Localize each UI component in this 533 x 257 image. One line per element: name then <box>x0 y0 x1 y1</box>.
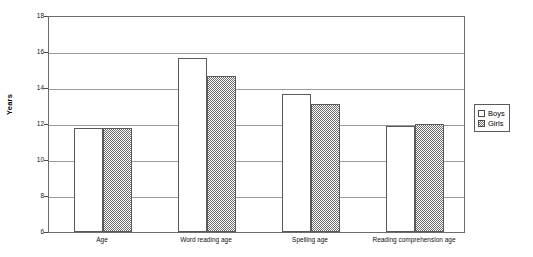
legend-label-girls: Girls <box>488 119 503 128</box>
bar-girls-reading-comprehension-age <box>415 124 444 233</box>
gridline-16 <box>49 53 464 54</box>
y-tick-label: 10 <box>0 156 44 163</box>
bar-boys-age <box>74 128 103 232</box>
y-tick-label: 8 <box>0 192 44 199</box>
bar-boys-reading-comprehension-age <box>386 126 415 232</box>
y-tick-label: 18 <box>0 12 44 19</box>
y-axis-title: Years <box>5 82 14 128</box>
x-tick-label-spelling-age: Spelling age <box>260 236 360 244</box>
y-tick-label: 6 <box>0 228 44 235</box>
legend: Boys Girls <box>474 104 510 132</box>
bar-chart-figure: 18 16 14 12 10 8 6 Years <box>0 0 533 257</box>
x-tick-label-word-reading-age: Word reading age <box>156 236 256 244</box>
y-axis: 18 16 14 12 10 8 6 <box>0 0 46 257</box>
x-tick-label-age: Age <box>52 236 152 244</box>
legend-label-boys: Boys <box>488 109 505 118</box>
legend-swatch-girls-icon <box>478 120 485 127</box>
plot-area <box>48 16 465 233</box>
legend-entry-boys: Boys <box>478 108 505 118</box>
bar-boys-word-reading-age <box>178 58 207 232</box>
x-axis: Age Word reading age Spelling age Readin… <box>48 236 465 254</box>
bar-girls-spelling-age <box>311 104 340 232</box>
legend-swatch-boys-icon <box>478 110 485 117</box>
gridline-14 <box>49 89 464 90</box>
bar-girls-word-reading-age <box>207 76 236 232</box>
legend-entry-girls: Girls <box>478 118 505 128</box>
x-tick-label-reading-comprehension-age: Reading comprehension age <box>364 236 464 244</box>
bar-girls-age <box>103 128 132 232</box>
bar-boys-spelling-age <box>282 94 311 232</box>
y-tick-label: 16 <box>0 48 44 55</box>
